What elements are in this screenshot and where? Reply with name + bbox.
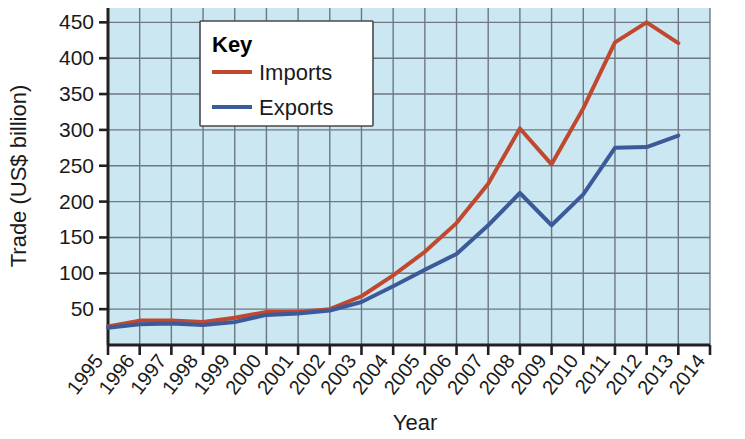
chart-canvas: 50100150200250300350400450 1995199619971… bbox=[0, 0, 745, 439]
y-axis-tick-label: 150 bbox=[59, 225, 94, 248]
y-axis-tick-label: 50 bbox=[71, 297, 94, 320]
y-axis-tick-label: 200 bbox=[59, 190, 94, 213]
y-axis-tick-label: 450 bbox=[59, 10, 94, 33]
chart-legend: Key ImportsExports bbox=[200, 21, 373, 126]
y-axis-tick-label: 250 bbox=[59, 154, 94, 177]
y-axis-tick-label: 350 bbox=[59, 82, 94, 105]
y-axis-tick-label: 100 bbox=[59, 261, 94, 284]
y-axis-tick-label: 400 bbox=[59, 46, 94, 69]
y-axis-tick-label: 300 bbox=[59, 118, 94, 141]
legend-title: Key bbox=[212, 32, 253, 57]
legend-label-exports: Exports bbox=[259, 95, 334, 120]
y-axis-tick-labels: 50100150200250300350400450 bbox=[59, 10, 94, 320]
x-axis-title: Year bbox=[393, 410, 437, 435]
y-axis-title: Trade (US$ billion) bbox=[6, 85, 31, 268]
legend-label-imports: Imports bbox=[259, 60, 332, 85]
trade-line-chart: 50100150200250300350400450 1995199619971… bbox=[0, 0, 745, 439]
